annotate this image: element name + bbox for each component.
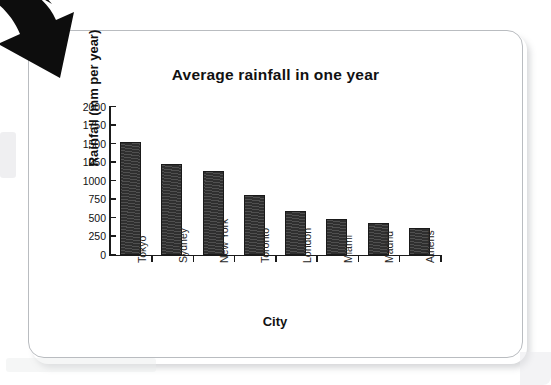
x-axis-category-label: Miami — [342, 235, 354, 263]
y-axis-label: Rainfall (mm per year) — [28, 0, 50, 120]
y-axis-tick-mark — [109, 217, 116, 219]
page-edge-smudge-bottom-left — [6, 358, 156, 372]
y-axis-tick-mark — [109, 180, 116, 182]
x-axis-tick-mark — [234, 255, 236, 262]
y-axis-tick-mark — [109, 161, 116, 163]
y-axis-tick-mark — [109, 143, 116, 145]
y-axis-tick-label: 1750 — [83, 119, 106, 131]
y-axis-tick: 750 — [62, 193, 116, 205]
x-axis-category-label: New York — [218, 219, 230, 263]
y-axis-tick: 1000 — [62, 175, 116, 187]
y-axis-tick: 1250 — [62, 156, 116, 168]
y-axis-tick-label: 2000 — [83, 101, 106, 113]
y-axis-tick: 1750 — [62, 119, 116, 131]
x-axis-category-label: Madrid — [383, 231, 395, 263]
x-axis-tick-mark — [399, 255, 401, 262]
y-axis-tick: 1500 — [62, 138, 116, 150]
y-axis-tick-label: 250 — [88, 230, 106, 242]
y-axis-tick: 250 — [62, 230, 116, 242]
y-axis-tick-label: 1000 — [83, 175, 106, 187]
y-axis-tick-label: 1500 — [83, 138, 106, 150]
page-edge-smudge-left — [0, 132, 16, 178]
x-axis-tick-mark — [316, 255, 318, 262]
x-axis-category-label: Athens — [424, 230, 436, 263]
y-axis-tick-label: 0 — [100, 249, 106, 261]
x-axis-category-label: London — [301, 228, 313, 263]
page-edge-smudge-bottom-right — [520, 352, 551, 385]
y-axis-tick-mark — [109, 235, 116, 237]
y-axis-tick: 0 — [62, 249, 116, 261]
y-axis-tick-mark — [109, 198, 116, 200]
y-axis-tick-label: 1250 — [83, 156, 106, 168]
y-axis-tick-mark — [109, 124, 116, 126]
page-background: Average rainfall in one year Rainfall (m… — [0, 0, 551, 385]
y-axis-tick: 500 — [62, 212, 116, 224]
x-axis-tick-mark — [193, 255, 195, 262]
y-axis-tick-label: 500 — [88, 212, 106, 224]
x-axis-category-label: Toronto — [259, 228, 271, 263]
x-axis-label: City — [75, 314, 475, 329]
x-axis-tick-mark — [358, 255, 360, 262]
y-axis-tick: 2000 — [62, 101, 116, 113]
x-axis-tick-mark — [275, 255, 277, 262]
x-axis-category-label: Tokyo — [136, 236, 148, 263]
x-axis-category-label: Sydney — [177, 228, 189, 263]
x-axis-tick-mark — [151, 255, 153, 262]
y-axis-tick-mark — [109, 106, 116, 108]
y-axis-tick-mark — [109, 254, 116, 256]
y-axis-tick-label: 750 — [88, 193, 106, 205]
chart-title: Average rainfall in one year — [0, 66, 551, 84]
x-axis-tick-mark — [440, 255, 442, 262]
